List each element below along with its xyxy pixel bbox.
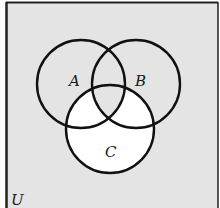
universe-label: U bbox=[11, 191, 25, 208]
set-c-label: C bbox=[105, 143, 117, 161]
set-b-label: B bbox=[134, 72, 146, 90]
set-a-label: A bbox=[67, 72, 80, 90]
venn-diagram: A B C U bbox=[0, 0, 220, 208]
